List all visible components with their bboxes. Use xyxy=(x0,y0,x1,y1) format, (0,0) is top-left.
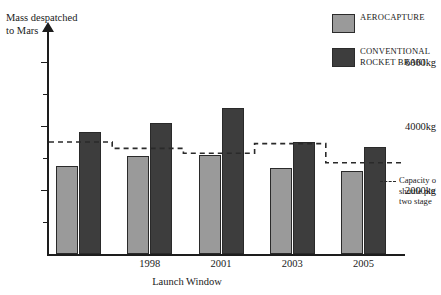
bar-aerocapture-0 xyxy=(56,166,78,254)
bar-rocket-3 xyxy=(293,142,315,254)
bar-rocket-4 xyxy=(364,147,386,254)
y-tick-6000 xyxy=(41,62,48,63)
legend-swatch-rocket xyxy=(332,48,355,67)
y-tick-3000 xyxy=(43,158,48,159)
x-axis-line xyxy=(47,254,405,256)
legend-label-aerocapture: AEROCAPTURE xyxy=(360,12,441,23)
x-tick-label-1998: 1998 xyxy=(139,258,160,269)
legend: AEROCAPTURE CONVENTIONAL ROCKET BRAKI xyxy=(332,12,436,80)
legend-item-rocket: CONVENTIONAL ROCKET BRAKI xyxy=(332,46,436,80)
bar-rocket-2 xyxy=(222,108,244,254)
y-tick-5000 xyxy=(43,94,48,95)
y-tick-1000 xyxy=(43,222,48,223)
y-tick-7000 xyxy=(43,30,48,31)
legend-item-aerocapture: AEROCAPTURE xyxy=(332,12,436,46)
legend-swatch-aerocapture xyxy=(332,14,355,33)
bar-aerocapture-2 xyxy=(199,155,221,254)
dashed-line-icon xyxy=(380,181,396,182)
x-tick-label-2003: 2003 xyxy=(282,258,303,269)
bar-aerocapture-3 xyxy=(270,168,292,254)
bar-aerocapture-1 xyxy=(127,156,149,254)
bar-rocket-0 xyxy=(79,132,101,254)
bar-rocket-1 xyxy=(150,123,172,254)
x-axis-title: Launch Window xyxy=(47,276,327,287)
x-tick-label-2005: 2005 xyxy=(353,258,374,269)
x-tick-label-2001: 2001 xyxy=(211,258,232,269)
legend-label-rocket: CONVENTIONAL ROCKET BRAKI xyxy=(360,46,441,67)
capacity-note-text: Capacity o shuttle plu two stage xyxy=(399,175,441,207)
y-tick-4000 xyxy=(41,126,48,127)
bar-aerocapture-4 xyxy=(341,171,363,254)
y-tick-2000 xyxy=(41,190,48,191)
